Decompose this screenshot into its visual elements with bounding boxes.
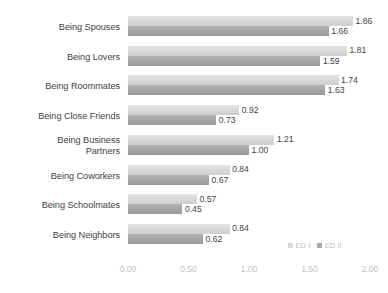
x-axis: 0.000.501.001.502.00 — [128, 263, 388, 277]
bar-group: 0.840.62 — [128, 222, 388, 248]
bar-ed-i — [128, 135, 274, 145]
bar-value-label: 0.62 — [206, 234, 223, 244]
bar-value-label: 1.66 — [331, 26, 348, 36]
bar-group: 1.741.63 — [128, 73, 388, 99]
bar-value-label: 0.45 — [185, 204, 202, 214]
category-label: Being Close Friends — [2, 111, 120, 122]
bar-value-label: 1.63 — [328, 85, 345, 95]
chart-category-row: Being Business Partners1.211.00 — [0, 133, 388, 159]
bar-ed-ii — [128, 234, 203, 244]
chart-category-row: Being Coworkers0.840.67 — [0, 163, 388, 189]
bar-ed-i — [128, 16, 353, 26]
bar-ed-i — [128, 194, 197, 204]
bar-value-label: 1.86 — [356, 16, 373, 26]
category-label: Being Schoolmates — [2, 200, 120, 211]
bar-value-label: 0.57 — [199, 194, 216, 204]
bar-ed-ii — [128, 26, 329, 36]
bar-group: 0.570.45 — [128, 192, 388, 218]
x-axis-tick-label: 0.50 — [180, 263, 197, 275]
chart-category-row: Being Spouses1.861.66 — [0, 14, 388, 40]
x-axis-tick-label: 1.50 — [301, 263, 318, 275]
category-label: Being Coworkers — [2, 170, 120, 181]
bar-ed-i — [128, 46, 347, 56]
x-axis-tick-label: 1.00 — [241, 263, 258, 275]
x-axis-tick-label: 0.00 — [120, 263, 137, 275]
bar-ed-i — [128, 105, 239, 115]
bar-ed-ii — [128, 145, 249, 155]
chart-category-row: Being Neighbors0.840.62 — [0, 222, 388, 248]
bar-value-label: 1.81 — [350, 45, 367, 55]
bar-value-label: 0.92 — [242, 105, 259, 115]
chart-category-row: Being Roommates1.741.63 — [0, 73, 388, 99]
bar-value-label: 1.21 — [277, 134, 294, 144]
category-label: Being Roommates — [2, 81, 120, 92]
chart-category-row: Being Lovers1.811.59 — [0, 44, 388, 70]
bar-value-label: 1.59 — [323, 56, 340, 66]
bar-chart: 0.000.501.001.502.00 ED IED II Being Spo… — [0, 0, 388, 293]
category-label: Being Business Partners — [2, 135, 120, 157]
category-label: Being Neighbors — [2, 229, 120, 240]
bar-value-label: 1.74 — [341, 75, 358, 85]
bar-ed-i — [128, 75, 339, 85]
bar-group: 1.211.00 — [128, 133, 388, 159]
x-axis-tick-label: 2.00 — [362, 263, 379, 275]
bar-ed-ii — [128, 85, 325, 95]
category-label: Being Lovers — [2, 51, 120, 62]
bar-ed-ii — [128, 204, 182, 214]
bar-group: 0.840.67 — [128, 163, 388, 189]
bar-ed-i — [128, 224, 230, 234]
bar-value-label: 1.00 — [252, 145, 269, 155]
bar-value-label: 0.73 — [219, 115, 236, 125]
bar-ed-ii — [128, 175, 209, 185]
bar-ed-ii — [128, 56, 320, 66]
chart-category-row: Being Close Friends0.920.73 — [0, 103, 388, 129]
bar-value-label: 0.84 — [232, 164, 249, 174]
category-label: Being Spouses — [2, 22, 120, 33]
bar-value-label: 0.67 — [212, 175, 229, 185]
bar-group: 0.920.73 — [128, 103, 388, 129]
bar-value-label: 0.84 — [232, 223, 249, 233]
bar-ed-i — [128, 165, 230, 175]
bar-ed-ii — [128, 115, 216, 125]
chart-category-row: Being Schoolmates0.570.45 — [0, 192, 388, 218]
bar-group: 1.861.66 — [128, 14, 388, 40]
bar-group: 1.811.59 — [128, 44, 388, 70]
